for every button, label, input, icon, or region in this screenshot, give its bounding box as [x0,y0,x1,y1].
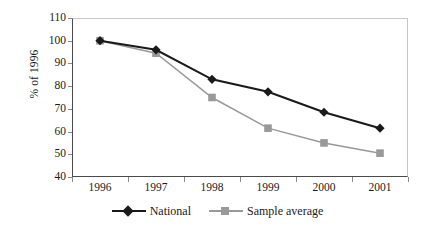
x-axis-tick-label: 1998 [182,182,242,194]
x-axis-tick-mark [296,177,297,182]
legend-label: National [150,205,191,217]
legend-diamond-icon [122,205,133,216]
x-axis-tick-label: 1996 [70,182,130,194]
x-axis-tick-mark [128,177,129,182]
y-axis-tick-label: 40 [6,171,66,183]
y-axis-tick-label: 50 [6,148,66,160]
line-chart: % of 1996 110100908070605040 19961997199… [0,0,435,229]
legend-label: Sample average [247,205,323,217]
y-axis-tick-label: 90 [6,57,66,69]
y-axis-tick-label: 60 [6,126,66,138]
x-axis-tick-mark [72,177,73,182]
y-axis-tick-label: 100 [6,35,66,47]
x-axis-tick-mark [408,177,409,182]
chart-legend: NationalSample average [0,200,435,222]
x-axis-tick-label: 1997 [126,182,186,194]
y-axis-tick-label: 80 [6,80,66,92]
legend-swatch [209,205,243,217]
x-axis-tick-label: 1999 [238,182,298,194]
x-axis-tick-label: 2001 [350,182,410,194]
legend-swatch [112,205,146,217]
x-axis-tick-label: 2000 [294,182,354,194]
plot-area [72,18,408,177]
x-axis-tick-mark [352,177,353,182]
legend-square-icon [221,207,229,215]
x-axis-tick-mark [240,177,241,182]
y-axis-tick-label: 70 [6,103,66,115]
legend-entry-sample-average[interactable]: Sample average [209,205,323,217]
legend-entry-national[interactable]: National [112,205,191,217]
x-axis-tick-mark [184,177,185,182]
y-axis-tick-label: 110 [6,12,66,24]
